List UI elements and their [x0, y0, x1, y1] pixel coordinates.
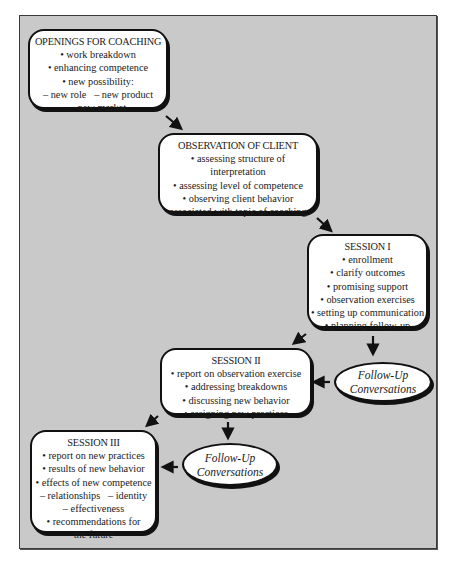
- node-line: the future: [32, 528, 155, 541]
- node-line: • assessing structure of: [160, 152, 316, 165]
- node-line: • enhancing competence: [30, 61, 166, 74]
- node-line: – new role – new product: [30, 88, 166, 101]
- node-title: OPENINGS FOR COACHING: [30, 35, 166, 48]
- node-line: • assessing level of competence: [160, 179, 316, 192]
- ellipse-line: Conversations: [184, 465, 276, 479]
- node-line: • planning follow-up: [309, 319, 426, 332]
- ellipse-line: Follow-Up: [336, 368, 430, 382]
- node-line: – relationships – identity: [32, 489, 155, 502]
- node-line: • report on new practices: [32, 449, 155, 462]
- node-line: • setting up communication: [309, 306, 426, 319]
- node-line: • new possibility:: [30, 75, 166, 88]
- node-line: • enrollment: [309, 253, 426, 266]
- node-title: SESSION III: [32, 436, 155, 449]
- node-follow-up-conversations-1: Follow-Up Conversations: [334, 362, 432, 402]
- node-line: • observing client behavior: [160, 192, 316, 205]
- ellipse-line: Conversations: [336, 382, 430, 396]
- node-line: – effectiveness: [32, 502, 155, 515]
- node-line: • assigning new practices: [162, 407, 310, 420]
- node-line: • observation exercises: [309, 293, 426, 306]
- node-line: interpretation: [160, 165, 316, 178]
- node-line: • addressing breakdowns: [162, 380, 310, 393]
- node-line: • results of new behavior: [32, 462, 155, 475]
- node-session-3: SESSION III • report on new practices • …: [30, 430, 157, 533]
- ellipse-line: Follow-Up: [184, 451, 276, 465]
- node-line: – new market: [30, 101, 166, 114]
- node-title: SESSION I: [309, 240, 426, 253]
- node-session-1: SESSION I • enrollment • clarify outcome…: [307, 234, 428, 328]
- node-line: • discussing new behavior: [162, 394, 310, 407]
- node-session-2: SESSION II • report on observation exerc…: [160, 348, 312, 415]
- node-line: • recommendations for: [32, 515, 155, 528]
- node-line: • effects of new competence: [32, 476, 155, 489]
- node-line: • report on observation exercise: [162, 367, 310, 380]
- node-follow-up-conversations-2: Follow-Up Conversations: [182, 443, 278, 486]
- node-line: associated with topic of coaching: [160, 205, 316, 218]
- node-line: • clarify outcomes: [309, 266, 426, 279]
- node-title: SESSION II: [162, 354, 310, 367]
- node-observation-of-client: OBSERVATION OF CLIENT • assessing struct…: [158, 133, 318, 213]
- node-openings-for-coaching: OPENINGS FOR COACHING • work breakdown •…: [28, 29, 168, 109]
- node-line: • promising support: [309, 280, 426, 293]
- node-line: • work breakdown: [30, 48, 166, 61]
- node-title: OBSERVATION OF CLIENT: [160, 139, 316, 152]
